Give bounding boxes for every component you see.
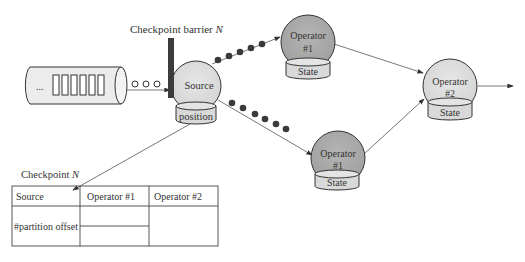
position-to-checkpoint-arrow — [73, 124, 190, 190]
op1-bottom-number: #1 — [333, 160, 343, 171]
operator-2-node: Operator #2 State — [423, 59, 477, 120]
source-to-op1-top-edge — [212, 37, 280, 64]
op1-bottom-to-op2-edge — [364, 99, 424, 154]
table-cell-partition-offset: #partition offset — [14, 221, 78, 232]
checkpoint-barrier-bar — [168, 38, 174, 98]
source-node: Source position — [171, 61, 221, 124]
queue-ellipsis: ... — [36, 81, 44, 92]
source-to-op1-bottom-edge — [218, 100, 312, 155]
barrier-label: Checkpoint barrier N — [130, 23, 224, 35]
position-store-label: position — [179, 111, 214, 122]
table-header-operator-2: Operator #2 — [154, 191, 202, 202]
op2-number: #2 — [445, 88, 455, 99]
inflight-records-hollow — [132, 81, 160, 87]
table-header-operator-1: Operator #1 — [87, 191, 135, 202]
op2-label: Operator — [432, 76, 468, 87]
checkpoint-title: Checkpoint N — [21, 169, 80, 180]
operator-1-bottom-node: Operator #1 State — [311, 131, 365, 190]
dataflow-diagram: Checkpoint barrier N ... — [0, 0, 525, 262]
inflight-records-lower — [229, 100, 290, 133]
input-queue: ... — [25, 67, 127, 104]
op2-state-label: State — [440, 107, 461, 118]
table-header-source: Source — [16, 191, 44, 202]
operator-1-top-node: Operator #1 State — [281, 15, 335, 79]
op1-bottom-state-label: State — [327, 177, 348, 188]
op1-top-label: Operator — [290, 30, 326, 41]
op1-top-to-op2-edge — [334, 44, 423, 73]
op1-top-state-label: State — [298, 66, 319, 77]
source-label: Source — [184, 80, 213, 91]
op1-bottom-label: Operator — [320, 148, 356, 159]
op1-top-number: #1 — [303, 43, 313, 54]
